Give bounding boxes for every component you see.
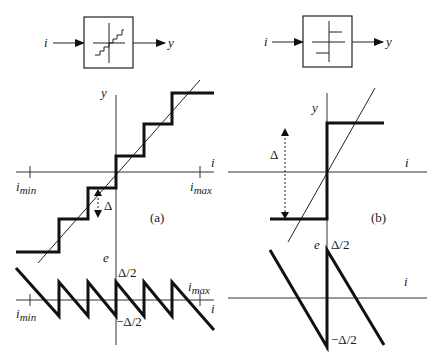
imin-label: imin: [16, 179, 37, 196]
panel-a: i y y i imin imax Δ: [16, 17, 215, 345]
delta-arrow-up-b: [281, 128, 289, 136]
y-axis-label: y: [99, 85, 107, 100]
i-axis-label: i: [211, 155, 215, 170]
i-axis-label-b: i: [405, 155, 409, 170]
block-b-input-label: i: [264, 34, 268, 49]
sawtooth-error-curve: [16, 268, 214, 330]
imax-label: imax: [190, 179, 212, 196]
e-imax-label: imax: [188, 279, 210, 296]
delta-label-b: Δ: [270, 147, 278, 162]
quantization-diagram: i y y i imin imax Δ: [0, 0, 441, 361]
y-axis-label-b: y: [310, 100, 318, 115]
e-lower-label-b: −Δ/2: [331, 332, 357, 347]
panel-b-error-plot: e i Δ/2 −Δ/2: [228, 237, 427, 347]
e-axis-label-b: e: [314, 237, 320, 252]
delta-label: Δ: [104, 198, 112, 213]
delta-arrow-down: [94, 210, 102, 218]
block-a-input-label: i: [44, 35, 48, 50]
panel-b-block: i y: [264, 16, 392, 67]
relay-curve: [270, 123, 384, 219]
e-lower-label: −Δ/2: [116, 314, 142, 329]
e-axis-label: e: [103, 250, 109, 265]
caption-b: (b): [371, 210, 386, 225]
e-i-axis-label-b: i: [404, 274, 408, 289]
block-a-output-label: y: [166, 35, 174, 50]
panel-b: i y y i Δ (b) e: [228, 16, 427, 350]
e-imin-label: imin: [16, 306, 37, 323]
e-upper-label: Δ/2: [118, 265, 136, 280]
caption-a: (a): [150, 210, 164, 225]
e-i-axis-label: i: [211, 301, 215, 316]
block-b-output-label: y: [384, 34, 392, 49]
e-upper-label-b: Δ/2: [331, 237, 349, 252]
panel-a-block: i y: [44, 17, 174, 68]
